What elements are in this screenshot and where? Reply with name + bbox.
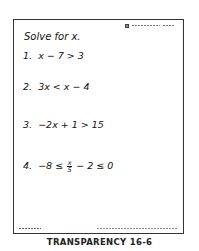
problem-number: 4. — [23, 160, 32, 171]
publisher-note-2 — [163, 25, 175, 26]
problem-expression: x − 7 > 3 — [38, 50, 84, 61]
publisher-note — [132, 25, 160, 26]
problem-1: 1. x − 7 > 3 — [23, 50, 84, 61]
fraction-denominator: 5 — [68, 167, 72, 173]
problem-4: 4. −8 ≤ x 5 − 2 ≤ 0 — [23, 160, 113, 173]
problem-expression: −2x + 1 > 15 — [38, 119, 104, 130]
footer-left-label — [19, 228, 41, 229]
problem-expression: 3x < x − 4 — [38, 81, 89, 92]
problem-3: 3. −2x + 1 > 15 — [23, 119, 104, 130]
transparency-caption: TRANSPARENCY 16-6 — [0, 237, 199, 247]
transparency-sheet: Solve for x. 1. x − 7 > 3 2. 3x < x − 4 … — [13, 19, 184, 234]
problem-prefix: −8 ≤ — [38, 160, 63, 171]
publisher-header — [125, 23, 175, 28]
problem-suffix: − 2 ≤ 0 — [76, 160, 113, 171]
problem-2: 2. 3x < x − 4 — [23, 81, 89, 92]
fraction: x 5 — [67, 160, 72, 173]
problem-number: 3. — [23, 119, 32, 130]
footer-right-label — [97, 228, 177, 229]
instruction-title: Solve for x. — [24, 31, 81, 42]
problem-number: 2. — [23, 81, 32, 92]
problem-number: 1. — [23, 50, 32, 61]
publisher-logo-icon — [125, 24, 129, 28]
